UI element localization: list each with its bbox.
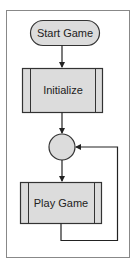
- play-game-label: Play Game: [34, 197, 88, 209]
- initialize-node: Initialize: [23, 69, 103, 113]
- start-game-node: Start Game: [31, 21, 100, 46]
- play-game-node: Play Game: [21, 183, 102, 224]
- initialize-label: Initialize: [43, 84, 83, 96]
- start-game-label: Start Game: [37, 27, 93, 39]
- junction-connector: [49, 134, 75, 160]
- flowchart: Start Game Initialize Play Game: [0, 0, 139, 265]
